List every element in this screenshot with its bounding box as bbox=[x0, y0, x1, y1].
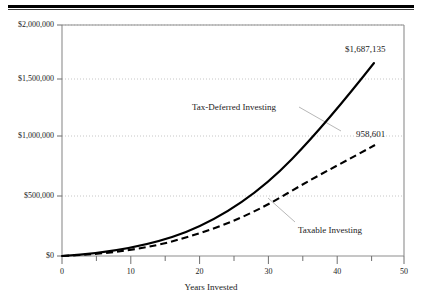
series-line-taxable bbox=[62, 145, 375, 256]
x-axis-title: Years Invested bbox=[0, 283, 422, 292]
y-tick-label-0: $0 bbox=[0, 252, 54, 260]
x-ticks bbox=[62, 256, 404, 264]
x-tick-label-50: 50 bbox=[394, 268, 414, 276]
x-tick-label-30: 30 bbox=[258, 268, 278, 276]
plot-frame bbox=[62, 25, 404, 256]
y-tick-label-500000: $500,000 bbox=[0, 192, 54, 200]
series-label-taxable: Taxable Investing bbox=[298, 226, 362, 235]
y-ticks bbox=[57, 25, 62, 256]
x-tick-label-20: 20 bbox=[190, 268, 210, 276]
value-label-tax-deferred: $1,687,135 bbox=[345, 45, 386, 54]
y-tick-label-1500000: $1,500,000 bbox=[0, 75, 54, 83]
chart-figure: $2,000,000 $1,500,000 $1,000,000 $500,00… bbox=[0, 0, 422, 297]
x-tick-label-10: 10 bbox=[121, 268, 141, 276]
y-tick-label-1000000: $1,000,000 bbox=[0, 132, 54, 140]
x-tick-label-0: 0 bbox=[52, 268, 72, 276]
x-tick-label-40: 40 bbox=[327, 268, 347, 276]
annotation-leaders bbox=[268, 107, 341, 222]
series-label-tax-deferred: Tax-Deferred Investing bbox=[192, 103, 276, 112]
leader-taxable bbox=[268, 198, 295, 222]
y-tick-label-2000000: $2,000,000 bbox=[0, 21, 54, 29]
value-label-taxable: 958,601 bbox=[356, 130, 385, 139]
